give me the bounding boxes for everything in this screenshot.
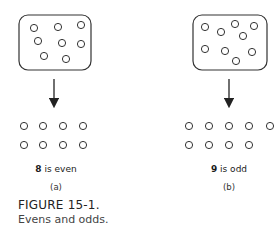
unsorted-objects-a xyxy=(30,21,84,62)
paired-objects-b xyxy=(185,122,273,148)
paired-objects-a xyxy=(20,122,86,148)
object-circle xyxy=(232,57,239,64)
object-circle xyxy=(20,122,27,129)
object-circle xyxy=(58,39,65,46)
panel-a-label: 8 is even xyxy=(35,164,76,174)
object-circle xyxy=(34,37,41,44)
object-circle xyxy=(205,122,212,129)
set-box-a xyxy=(19,15,91,70)
object-circle xyxy=(79,141,86,148)
object-circle xyxy=(54,23,61,30)
panel-b xyxy=(185,15,273,149)
object-circle xyxy=(225,141,232,148)
object-circle xyxy=(77,21,84,28)
object-circle xyxy=(30,24,37,31)
object-circle xyxy=(245,122,252,129)
figure-title: FIGURE 15-1. xyxy=(18,198,100,212)
object-circle xyxy=(266,122,273,129)
object-circle xyxy=(205,141,212,148)
unsorted-objects-b xyxy=(201,20,257,64)
panel-b-label: 9 is odd xyxy=(211,164,247,174)
object-circle xyxy=(20,141,27,148)
object-circle xyxy=(59,141,66,148)
object-circle xyxy=(40,52,47,59)
object-circle xyxy=(248,48,255,55)
object-circle xyxy=(59,122,66,129)
object-circle xyxy=(225,122,232,129)
parity-a: is even xyxy=(42,164,77,174)
object-circle xyxy=(185,141,192,148)
object-circle xyxy=(217,28,224,35)
object-circle xyxy=(201,23,208,30)
panel-b-sublabel: (b) xyxy=(223,182,235,192)
panel-a xyxy=(19,15,91,149)
object-circle xyxy=(231,20,238,27)
object-circle xyxy=(221,47,228,54)
object-circle xyxy=(250,22,257,29)
object-circle xyxy=(39,122,46,129)
panel-a-sublabel: (a) xyxy=(50,182,62,192)
object-circle xyxy=(77,40,84,47)
figure-caption: Evens and odds. xyxy=(18,213,109,226)
parity-b: is odd xyxy=(217,164,247,174)
object-circle xyxy=(201,45,208,52)
object-circle xyxy=(79,122,86,129)
object-circle xyxy=(62,55,69,62)
object-circle xyxy=(245,141,252,148)
object-circle xyxy=(185,122,192,129)
object-circle xyxy=(39,141,46,148)
object-circle xyxy=(239,32,246,39)
